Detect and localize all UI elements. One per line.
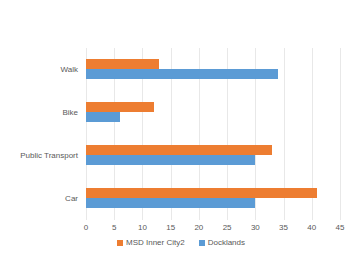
- tick-label: 30: [251, 222, 260, 234]
- bar: [86, 59, 159, 69]
- bar: [86, 198, 255, 208]
- tick-label: 10: [138, 222, 147, 234]
- legend-swatch-icon: [199, 240, 205, 246]
- bar-group: [86, 188, 340, 209]
- category-label: Bike: [0, 108, 78, 118]
- bar: [86, 102, 154, 112]
- bar: [86, 188, 317, 198]
- legend-item[interactable]: MSD Inner City2: [117, 238, 185, 248]
- bar: [86, 155, 255, 165]
- legend-label: Docklands: [208, 238, 245, 248]
- tick-label: 45: [336, 222, 345, 234]
- tick-label: 35: [279, 222, 288, 234]
- bar-chart: WalkBikePublic TransportCar 051015202530…: [0, 0, 362, 260]
- bar-series-container: [86, 48, 340, 220]
- tick-label: 0: [84, 222, 88, 234]
- legend-label: MSD Inner City2: [126, 238, 185, 248]
- chart-legend: MSD Inner City2Docklands: [0, 238, 362, 248]
- plot-area: [86, 48, 340, 220]
- bar-group: [86, 59, 340, 80]
- bar: [86, 112, 120, 122]
- value-axis: 051015202530354045: [86, 222, 340, 234]
- tick-label: 40: [307, 222, 316, 234]
- category-label: Walk: [0, 65, 78, 75]
- bar: [86, 69, 278, 79]
- tick-label: 20: [194, 222, 203, 234]
- category-label: Public Transport: [0, 151, 78, 161]
- bar-group: [86, 145, 340, 166]
- bar-group: [86, 102, 340, 123]
- tick-label: 15: [166, 222, 175, 234]
- tick-label: 25: [223, 222, 232, 234]
- category-label: Car: [0, 194, 78, 204]
- gridline-45: [340, 48, 341, 220]
- category-axis: WalkBikePublic TransportCar: [0, 48, 82, 220]
- bar: [86, 145, 272, 155]
- legend-swatch-icon: [117, 240, 123, 246]
- legend-item[interactable]: Docklands: [199, 238, 245, 248]
- tick-label: 5: [112, 222, 116, 234]
